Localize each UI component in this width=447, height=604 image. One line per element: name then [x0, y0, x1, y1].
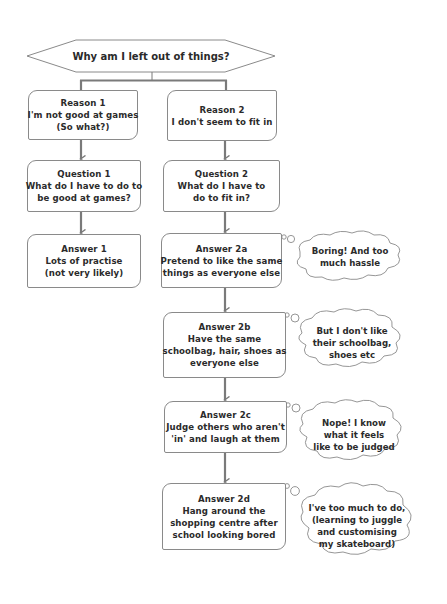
question-2-text: What do I have to	[178, 180, 266, 192]
question-1-box: Question 1 What do I have to do to be go…	[27, 160, 141, 212]
answer-2d-text: Hang around the	[182, 505, 265, 517]
thought-2d-text: I've too much to do, (learning to juggle…	[298, 495, 416, 557]
answer-2b-box: Answer 2b Have the same schoolbag, hair,…	[163, 312, 286, 378]
branch-connector	[80, 72, 227, 90]
answer-2a-text-2: things as everyone else	[163, 267, 280, 279]
reason-2-heading: Reason 2	[199, 104, 244, 116]
answer-1-text: Lots of practise	[45, 255, 122, 267]
question-1-text: What do I have to do to	[26, 180, 142, 192]
answer-2a-text: Pretend to like the same	[161, 255, 283, 267]
answer-2a-box: Answer 2a Pretend to like the same thing…	[161, 233, 282, 288]
question-2-box: Question 2 What do I have to do to fit i…	[163, 160, 280, 212]
answer-1-aside: (not very likely)	[45, 267, 124, 279]
answer-2d-text-3: school looking bored	[172, 529, 275, 541]
answer-1-heading: Answer 1	[61, 243, 107, 255]
answer-2c-box: Answer 2c Judge others who aren't 'in' a…	[164, 401, 287, 453]
question-2-heading: Question 2	[195, 168, 248, 180]
reason-2-box: Reason 2 I don't seem to fit in	[167, 90, 277, 141]
answer-2b-text-3: everyone else	[190, 357, 259, 369]
thought-2b-line: But I don't like	[316, 325, 387, 337]
answer-2c-heading: Answer 2c	[200, 409, 251, 421]
question-2-text-2: do to fit in?	[193, 192, 250, 204]
answer-1-box: Answer 1 Lots of practise (not very like…	[27, 234, 141, 288]
thought-2b-text: But I don't like their schoolbag, shoes …	[300, 318, 404, 368]
thought-2a-line: much hassle	[320, 257, 380, 269]
question-1-heading: Question 1	[57, 168, 110, 180]
answer-2d-heading: Answer 2d	[198, 493, 250, 505]
reason-1-heading: Reason 1	[60, 97, 105, 109]
question-1-text-2: be good at games?	[37, 192, 131, 204]
reason-1-aside: (So what?)	[57, 121, 110, 133]
answer-2b-heading: Answer 2b	[199, 321, 251, 333]
answer-2c-text-2: 'in' and laugh at them	[171, 433, 280, 445]
answer-2d-text-2: shopping centre after	[170, 517, 278, 529]
thought-2a-line: Boring! And too	[312, 245, 389, 257]
thought-2d-line: my skateboard)	[319, 538, 395, 550]
thought-2d-line: I've too much to do,	[309, 502, 406, 514]
flowchart: Why am I left out of things? Reason 1 I'…	[0, 0, 447, 604]
answer-2b-text: Have the same	[188, 333, 261, 345]
answer-2b-text-2: schoolbag, hair, shoes as	[162, 345, 286, 357]
thought-2c-text: Nope! I know what it feels like to be ju…	[302, 410, 406, 460]
thought-2b-line: shoes etc	[329, 349, 375, 361]
answer-2c-text: Judge others who aren't	[166, 421, 285, 433]
thought-2b-line: their schoolbag,	[313, 337, 392, 349]
answer-2a-heading: Answer 2a	[196, 243, 248, 255]
thought-2a-text: Boring! And too much hassle	[298, 237, 402, 277]
thought-2c-line: what it feels	[324, 429, 384, 441]
diagram-title: Why am I left out of things?	[27, 40, 275, 72]
reason-1-text: I'm not good at games	[28, 109, 139, 121]
reason-2-text: I don't seem to fit in	[172, 116, 273, 128]
thought-2d-line: (learning to juggle	[312, 514, 402, 526]
reason-1-box: Reason 1 I'm not good at games (So what?…	[28, 90, 138, 140]
thought-2d-line: and customising	[317, 526, 397, 538]
answer-2d-box: Answer 2d Hang around the shopping centr…	[162, 483, 286, 550]
thought-2c-line: Nope! I know	[322, 417, 386, 429]
thought-2c-line: like to be judged	[313, 441, 395, 453]
